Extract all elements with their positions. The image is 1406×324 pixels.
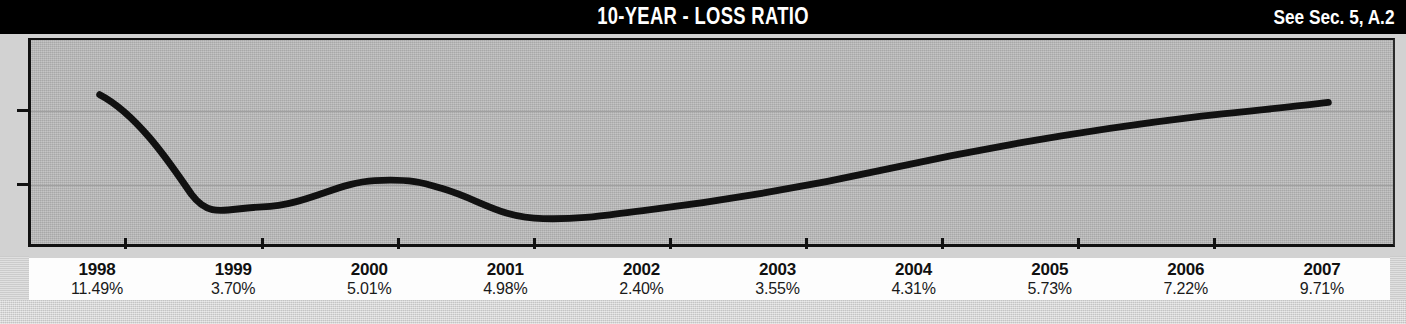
value-label: 5.01%	[347, 281, 391, 297]
label-cell-2006: 2006 7.22%	[1118, 258, 1254, 300]
value-label: 2.40%	[619, 281, 663, 297]
x-axis-tick	[533, 238, 536, 249]
chart-header-bar: 10-YEAR - LOSS RATIO See Sec. 5, A.2	[0, 0, 1406, 34]
x-axis-tick	[805, 238, 808, 249]
y-axis-tick-2	[17, 183, 28, 186]
year-label: 1998	[79, 261, 116, 278]
loss-ratio-line-series	[31, 40, 1393, 244]
value-label: 3.70%	[211, 281, 255, 297]
x-axis-tick	[1213, 238, 1216, 249]
plot-area	[28, 38, 1395, 247]
loss-ratio-chart-panel: 10-YEAR - LOSS RATIO See Sec. 5, A.2 199…	[0, 0, 1406, 324]
label-cell-1998: 1998 11.49%	[29, 258, 165, 300]
y-axis-tick-1	[17, 109, 28, 112]
label-cell-2005: 2005 5.73%	[982, 258, 1118, 300]
label-cell-2002: 2002 2.40%	[573, 258, 709, 300]
value-label: 4.31%	[891, 281, 935, 297]
year-label: 1999	[215, 261, 252, 278]
value-label: 11.49%	[71, 281, 123, 297]
x-axis-tick	[261, 238, 264, 249]
label-cell-2000: 2000 5.01%	[301, 258, 437, 300]
year-value-label-band: 1998 11.49% 1999 3.70% 2000 5.01% 2001 4…	[29, 258, 1390, 300]
value-label: 9.71%	[1300, 281, 1344, 297]
year-label: 2000	[351, 261, 388, 278]
label-cell-2004: 2004 4.31%	[846, 258, 982, 300]
x-axis-tick	[397, 238, 400, 249]
label-cell-1999: 1999 3.70%	[165, 258, 301, 300]
section-reference: See Sec. 5, A.2	[1273, 0, 1394, 34]
year-label: 2005	[1031, 261, 1068, 278]
x-axis-tick	[1077, 238, 1080, 249]
bottom-page-background	[0, 300, 1406, 324]
page-title: 10-YEAR - LOSS RATIO	[141, 0, 1266, 34]
x-axis-tick	[941, 238, 944, 249]
x-axis-tick	[124, 238, 127, 249]
year-label: 2001	[487, 261, 524, 278]
label-cell-2003: 2003 3.55%	[709, 258, 845, 300]
value-label: 4.98%	[483, 281, 527, 297]
label-cell-2001: 2001 4.98%	[437, 258, 573, 300]
year-label: 2003	[759, 261, 796, 278]
x-axis-tick	[669, 238, 672, 249]
label-cell-2007: 2007 9.71%	[1254, 258, 1390, 300]
year-label: 2006	[1167, 261, 1204, 278]
year-label: 2007	[1303, 261, 1340, 278]
value-label: 3.55%	[755, 281, 799, 297]
year-label: 2002	[623, 261, 660, 278]
value-label: 7.22%	[1164, 281, 1208, 297]
chart-region	[0, 34, 1406, 256]
value-label: 5.73%	[1028, 281, 1072, 297]
year-label: 2004	[895, 261, 932, 278]
